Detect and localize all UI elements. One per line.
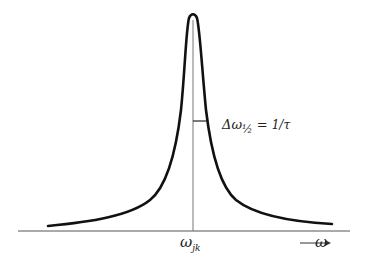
jk-subscript: jk — [192, 243, 200, 253]
half-width-label: Δω½ = 1/τ — [222, 117, 290, 136]
numerator: 1 — [272, 118, 280, 132]
one-over-tau: 1/τ — [272, 118, 290, 132]
center-frequency-label: ωjk — [180, 233, 200, 253]
half-subscript: ½ — [242, 123, 253, 136]
equals-sign: = — [257, 117, 268, 132]
axis-label: ω — [315, 233, 327, 251]
denominator: τ — [283, 118, 290, 132]
lineshape-diagram — [0, 0, 366, 271]
omega-axis-symbol: ω — [315, 233, 327, 251]
omega-symbol: ω — [180, 233, 192, 251]
delta-omega: Δω — [222, 117, 242, 132]
